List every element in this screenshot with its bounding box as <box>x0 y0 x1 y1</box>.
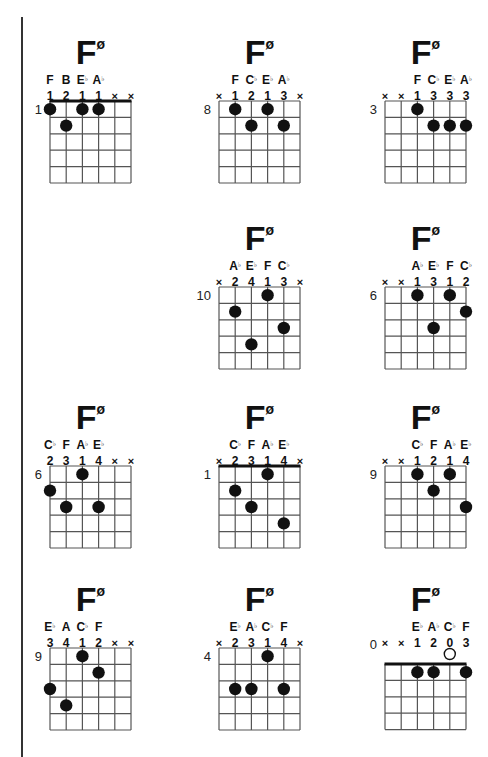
chord-diagram: FøE♭AC♭F3412××9 <box>20 584 160 757</box>
finger-dot <box>460 119 472 131</box>
chord-root: F <box>245 580 265 618</box>
note-name: C♭ <box>426 73 442 87</box>
fretboard <box>385 287 476 373</box>
chord-diagram: FøA♭E♭FC♭×2413×10 <box>189 223 329 398</box>
note-name: F <box>276 620 292 634</box>
fretboard <box>219 287 310 373</box>
chord-title: Fø <box>21 402 161 432</box>
note-name: E♭ <box>458 438 474 452</box>
chord-title: Fø <box>356 37 488 67</box>
note-name: F <box>426 438 442 452</box>
half-diminished-symbol: ø <box>97 401 106 417</box>
fretboard <box>50 648 141 734</box>
finger-dot <box>60 699 72 711</box>
start-fret-label: 0 <box>370 638 377 652</box>
finger-dot <box>411 103 423 115</box>
finger-dot <box>427 322 439 334</box>
finger-dot <box>427 666 439 678</box>
chord-diagram: FøE♭A♭C♭F×2314×4 <box>189 584 329 757</box>
fretboard-grid <box>385 466 476 552</box>
finger-dot <box>427 119 439 131</box>
finger-dot <box>444 468 456 480</box>
note-name: A♭ <box>276 73 292 87</box>
start-fret-label: 1 <box>204 468 211 482</box>
finger-dot <box>60 119 72 131</box>
chord-title: Fø <box>21 584 161 614</box>
note-name: C♭ <box>74 620 90 634</box>
finger-dot <box>60 501 72 513</box>
chord-diagram: FøA♭E♭FC♭××13126 <box>355 223 488 398</box>
finger-dot <box>76 103 88 115</box>
fretboard <box>385 466 476 552</box>
start-fret-label: 9 <box>370 468 377 482</box>
note-name: E♭ <box>442 73 458 87</box>
chord-root: F <box>76 580 96 618</box>
open-string-icon <box>444 649 455 660</box>
note-name: F <box>227 73 243 87</box>
note-name: A♭ <box>458 73 474 87</box>
finger-dot <box>44 484 56 496</box>
start-fret-label: 9 <box>35 650 42 664</box>
finger-dot <box>460 501 472 513</box>
note-name: E♭ <box>74 73 90 87</box>
note-name: C♭ <box>276 259 292 273</box>
note-name: F <box>42 73 58 87</box>
note-name: A♭ <box>442 438 458 452</box>
finger-dot <box>460 305 472 317</box>
finger-dot <box>444 289 456 301</box>
muted-string-icon: × <box>377 636 393 650</box>
chord-title: Fø <box>190 584 330 614</box>
start-fret-label: 8 <box>204 103 211 117</box>
finger-dot <box>444 119 456 131</box>
start-fret-label: 6 <box>35 468 42 482</box>
chord-diagram: FøFBE♭A♭1211××1 <box>20 37 160 212</box>
note-name: C♭ <box>243 73 259 87</box>
start-fret-label: 4 <box>204 650 211 664</box>
chord-title: Fø <box>356 223 488 253</box>
fretboard <box>50 466 141 552</box>
chord-title: Fø <box>21 37 161 67</box>
finger-number: 2 <box>426 636 442 650</box>
half-diminished-symbol: ø <box>266 222 275 238</box>
finger-dot <box>76 468 88 480</box>
note-name: F <box>458 620 474 634</box>
finger-dot <box>261 468 273 480</box>
note-name: F <box>243 438 259 452</box>
note-name: A♭ <box>409 259 425 273</box>
fretboard-grid <box>50 648 141 734</box>
chord-root: F <box>76 33 96 71</box>
fretboard-grid <box>50 466 141 552</box>
note-name: C♭ <box>409 438 425 452</box>
note-name: F <box>260 259 276 273</box>
chord-root: F <box>411 219 431 257</box>
chord-title: Fø <box>190 402 330 432</box>
finger-dot <box>245 119 257 131</box>
finger-dot <box>229 305 241 317</box>
chord-root: F <box>411 33 431 71</box>
finger-number: 1 <box>409 636 425 650</box>
note-name: C♭ <box>442 620 458 634</box>
fretboard-grid <box>219 287 310 373</box>
note-name: A♭ <box>243 620 259 634</box>
half-diminished-symbol: ø <box>432 222 441 238</box>
note-name: E♭ <box>42 620 58 634</box>
note-name: E♭ <box>426 259 442 273</box>
finger-dot <box>44 683 56 695</box>
half-diminished-symbol: ø <box>266 583 275 599</box>
chord-root: F <box>245 398 265 436</box>
finger-dot <box>278 322 290 334</box>
finger-dot <box>427 484 439 496</box>
chord-diagram: FøC♭FA♭E♭×2314×1 <box>189 402 329 577</box>
note-name: A♭ <box>426 620 442 634</box>
note-name: E♭ <box>409 620 425 634</box>
chord-diagram: FøC♭FA♭E♭××12149 <box>355 402 488 577</box>
chord-title: Fø <box>190 223 330 253</box>
note-name: A♭ <box>91 73 107 87</box>
note-name: A♭ <box>227 259 243 273</box>
chord-title: Fø <box>356 584 488 614</box>
fretboard-grid <box>385 664 476 734</box>
note-name: E♭ <box>91 438 107 452</box>
finger-dot <box>411 289 423 301</box>
note-name: B <box>58 73 74 87</box>
finger-dot <box>278 119 290 131</box>
